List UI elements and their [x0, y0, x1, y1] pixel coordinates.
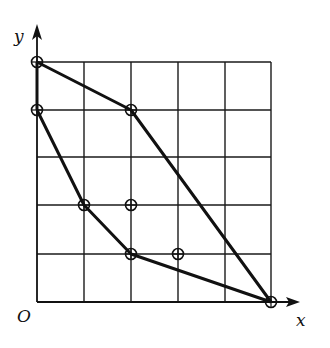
- circled-point-icon: [126, 105, 137, 116]
- lattice-diagram: y x O: [0, 0, 330, 348]
- paths: [37, 62, 271, 302]
- x-axis-label: x: [296, 310, 306, 330]
- circled-point-icon: [32, 105, 43, 116]
- circled-point-icon: [126, 249, 137, 260]
- marked-points: [32, 57, 277, 308]
- inner-path: [37, 110, 271, 302]
- y-axis-label: y: [13, 26, 24, 46]
- circled-point-icon: [126, 200, 137, 211]
- circled-point-icon: [79, 200, 90, 211]
- circled-point-icon: [173, 249, 184, 260]
- circled-point-icon: [266, 297, 277, 308]
- circled-point-icon: [32, 57, 43, 68]
- origin-label: O: [17, 306, 31, 326]
